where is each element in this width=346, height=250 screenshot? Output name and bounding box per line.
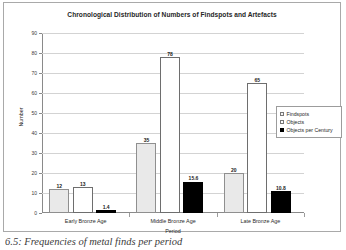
- bar-value-label: 13: [80, 181, 86, 187]
- y-tick-label: 0: [34, 210, 37, 216]
- y-tick-label: 20: [31, 170, 37, 176]
- bar-group: 357815.6: [129, 33, 216, 213]
- y-tick-label: 70: [31, 70, 37, 76]
- plot-wrap: 9080706050403020100 12131.4357815.620651…: [42, 33, 304, 213]
- bar-findspots[interactable]: 12: [49, 189, 69, 213]
- bar-objects[interactable]: 78: [160, 57, 180, 213]
- legend-label: Objects: [287, 119, 305, 125]
- legend-label: Objects per Century: [287, 127, 333, 133]
- chart-title: Chronological Distribution of Numbers of…: [4, 11, 340, 18]
- y-tick-label: 60: [31, 90, 37, 96]
- y-axis-title: Number: [18, 107, 24, 126]
- x-tick-separator: [217, 213, 218, 217]
- bar-group: 12131.4: [42, 33, 129, 213]
- figure-frame: Chronological Distribution of Numbers of…: [3, 2, 341, 232]
- legend-item-perCentury[interactable]: Objects per Century: [280, 126, 339, 134]
- figure-caption: 6.5: Frequencies of metal finds per peri…: [5, 236, 335, 250]
- y-tick-label: 40: [31, 130, 37, 136]
- bar-findspots[interactable]: 35: [136, 143, 156, 213]
- legend-swatch-objects: [280, 120, 284, 124]
- legend-swatch-perCentury: [280, 128, 284, 132]
- legend-item-findspots[interactable]: Findspots: [280, 110, 339, 118]
- x-tick-label: Early Bronze Age: [65, 218, 107, 224]
- legend-label: Findspots: [287, 111, 310, 117]
- bar-objects[interactable]: 65: [247, 83, 267, 213]
- bar-value-label: 1.4: [103, 204, 110, 210]
- bar-value-label: 15.6: [189, 175, 199, 181]
- y-tick-label: 50: [31, 110, 37, 116]
- bar-findspots[interactable]: 20: [224, 173, 244, 213]
- x-tick-label: Middle Bronze Age: [150, 218, 195, 224]
- chart-legend: FindspotsObjectsObjects per Century: [276, 106, 342, 138]
- y-tick-label: 90: [31, 30, 37, 36]
- y-tick-label: 10: [31, 190, 37, 196]
- bar-value-label: 20: [231, 167, 237, 173]
- bar-perCentury[interactable]: 10.8: [271, 191, 291, 213]
- bar-value-label: 78: [167, 51, 173, 57]
- x-tick-separator: [304, 213, 305, 217]
- y-tick-mark: [39, 213, 42, 214]
- bar-objects[interactable]: 13: [73, 187, 93, 213]
- bar-value-label: 35: [144, 137, 150, 143]
- y-tick-label: 80: [31, 50, 37, 56]
- bar-perCentury[interactable]: 1.4: [96, 210, 116, 213]
- y-tick-label: 30: [31, 150, 37, 156]
- bar-perCentury[interactable]: 15.6: [183, 182, 203, 213]
- x-axis-title: Period: [42, 228, 304, 234]
- x-tick-label: Late Bronze Age: [240, 218, 280, 224]
- bar-value-label: 10.8: [276, 185, 286, 191]
- bar-value-label: 12: [56, 183, 62, 189]
- bar-value-label: 65: [255, 77, 261, 83]
- legend-swatch-findspots: [280, 112, 284, 116]
- x-tick-separator: [129, 213, 130, 217]
- legend-item-objects[interactable]: Objects: [280, 118, 339, 126]
